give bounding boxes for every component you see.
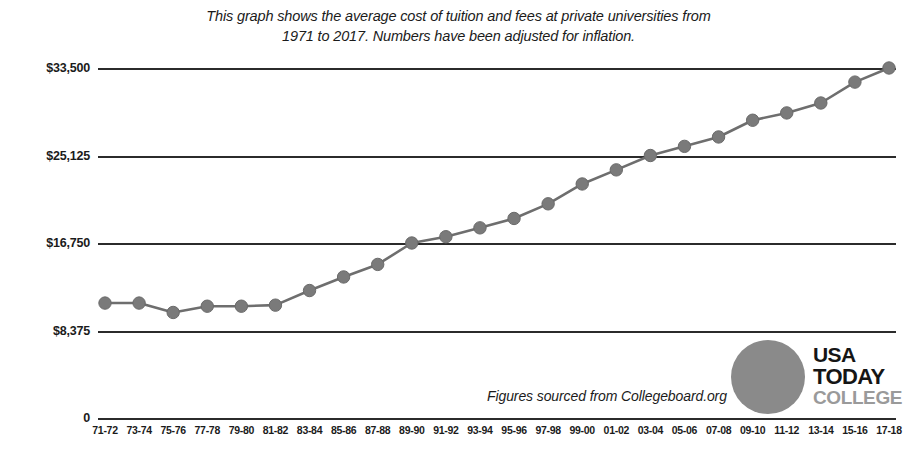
data-point[interactable] (235, 300, 247, 312)
data-point[interactable] (712, 131, 724, 143)
data-point[interactable] (781, 107, 793, 119)
data-point[interactable] (99, 297, 111, 309)
x-axis-tick-label: 71-72 (92, 424, 117, 436)
data-point[interactable] (746, 114, 758, 126)
data-point[interactable] (542, 198, 554, 210)
x-axis-tick-label: 81-82 (263, 424, 288, 436)
x-axis-tick-label: 77-78 (195, 424, 220, 436)
y-axis-tick-label: 0 (4, 411, 90, 425)
x-axis-tick-label: 13-14 (808, 424, 833, 436)
title-line-1: This graph shows the average cost of tui… (0, 6, 917, 26)
data-point[interactable] (474, 222, 486, 234)
x-axis-tick-label: 93-94 (467, 424, 492, 436)
x-axis-tick-label: 73-74 (126, 424, 151, 436)
data-point[interactable] (269, 299, 281, 311)
data-point[interactable] (883, 62, 895, 74)
x-axis-tick-label: 01-02 (604, 424, 629, 436)
x-axis-tick-label: 11-12 (774, 424, 799, 436)
x-axis-tick-label: 83-84 (297, 424, 322, 436)
logo-wordmark: USA TODAY COLLEGE (813, 344, 902, 408)
logo-today-text: TODAY (813, 365, 902, 388)
data-point[interactable] (372, 258, 384, 270)
x-axis-tick-label: 79-80 (229, 424, 254, 436)
source-note: Figures sourced from Collegeboard.org (487, 388, 727, 404)
title-line-2: 1971 to 2017. Numbers have been adjusted… (0, 26, 917, 46)
series-line (105, 68, 889, 312)
x-axis-tick-label: 89-90 (399, 424, 424, 436)
y-axis-tick-label: $33,500 (4, 61, 90, 75)
data-point[interactable] (508, 212, 520, 224)
x-axis-tick-label: 03-04 (638, 424, 663, 436)
data-point[interactable] (337, 271, 349, 283)
x-axis: 71-7273-7475-7677-7879-8081-8283-8485-86… (98, 424, 896, 446)
x-axis-tick-label: 87-88 (365, 424, 390, 436)
x-axis-tick-label: 99-00 (570, 424, 595, 436)
data-point[interactable] (167, 306, 179, 318)
data-point[interactable] (406, 237, 418, 249)
data-point[interactable] (678, 140, 690, 152)
x-axis-tick-label: 95-96 (501, 424, 526, 436)
y-axis-tick-label: $16,750 (4, 236, 90, 250)
y-axis: $33,500$25,125$16,750$8,3750 (0, 68, 90, 418)
x-axis-tick-label: 07-08 (706, 424, 731, 436)
x-axis-tick-label: 97-98 (535, 424, 560, 436)
page-title: This graph shows the average cost of tui… (0, 6, 917, 46)
data-point[interactable] (133, 297, 145, 309)
logo-circle-icon (731, 340, 805, 414)
x-axis-tick-label: 91-92 (433, 424, 458, 436)
logo-college-text: COLLEGE (813, 388, 902, 408)
y-axis-tick-label: $8,375 (4, 324, 90, 338)
data-point[interactable] (644, 149, 656, 161)
data-point[interactable] (201, 300, 213, 312)
x-axis-line (98, 418, 896, 420)
data-point[interactable] (849, 76, 861, 88)
usa-today-college-logo: USA TODAY COLLEGE (731, 340, 909, 414)
x-axis-tick-label: 17-18 (876, 424, 901, 436)
data-point[interactable] (303, 284, 315, 296)
logo-usa-text: USA (813, 344, 902, 365)
x-axis-tick-label: 75-76 (160, 424, 185, 436)
data-point[interactable] (440, 231, 452, 243)
data-point[interactable] (576, 178, 588, 190)
data-point[interactable] (610, 164, 622, 176)
x-axis-tick-label: 05-06 (672, 424, 697, 436)
data-point[interactable] (815, 97, 827, 109)
x-axis-tick-label: 85-86 (331, 424, 356, 436)
y-axis-tick-label: $25,125 (4, 149, 90, 163)
x-axis-tick-label: 09-10 (740, 424, 765, 436)
x-axis-tick-label: 15-16 (842, 424, 867, 436)
